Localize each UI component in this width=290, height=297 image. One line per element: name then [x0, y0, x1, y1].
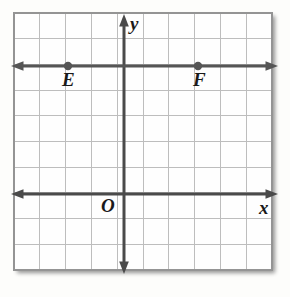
y-axis-label: y: [130, 14, 138, 33]
coordinate-plane-figure: y x O E F: [0, 0, 290, 297]
point-e-label: E: [62, 70, 75, 89]
origin-label: O: [101, 196, 115, 215]
point-f-label: F: [193, 70, 206, 89]
coordinate-plane-svg: [0, 0, 290, 297]
x-axis-label: x: [259, 198, 269, 217]
